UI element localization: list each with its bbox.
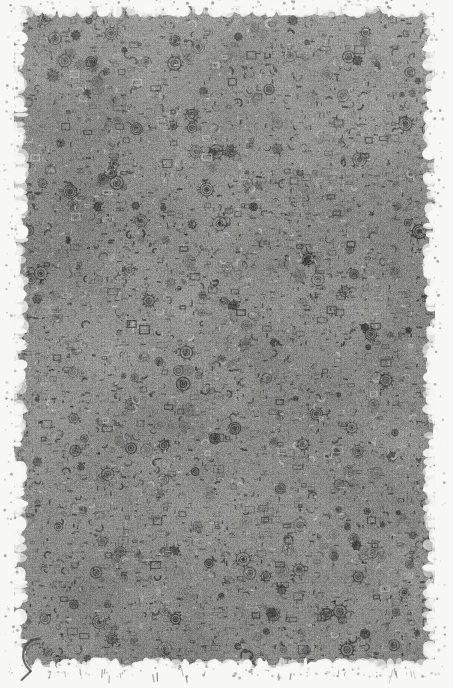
- curved-ink-mark: [0, 0, 453, 688]
- image-canvas: Densely patterned all-over textile field…: [0, 0, 453, 688]
